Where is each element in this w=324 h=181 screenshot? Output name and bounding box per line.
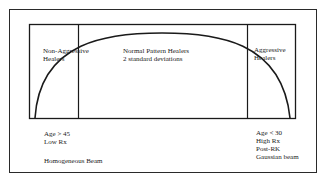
label-aggressive: Aggressive Healers	[254, 46, 286, 62]
note-line: Post-RK	[256, 145, 299, 153]
note-line: Age > 45	[44, 130, 70, 138]
note-line: Gaussian beam	[256, 153, 299, 161]
note-line: High Rx	[256, 137, 299, 145]
label-line: Healers	[43, 55, 89, 63]
note-line: Low Rx	[44, 138, 70, 146]
inner-box	[30, 25, 296, 119]
notes-left: Age > 45 Low Rx	[44, 130, 70, 146]
note-line: Age < 30	[256, 129, 299, 137]
label-line: 2 standard deviations	[123, 55, 189, 63]
notes-right: Age < 30 High Rx Post-RK Gaussian beam	[256, 129, 299, 161]
note-line: Homogeneous Beam	[44, 157, 103, 165]
notes-left-beam: Homogeneous Beam	[44, 157, 103, 165]
label-line: Aggressive	[254, 46, 286, 54]
label-non-aggressive: Non-Aggressive Healers	[43, 47, 89, 63]
label-line: Normal Pattern Healers	[123, 47, 189, 55]
label-line: Non-Aggressive	[43, 47, 89, 55]
bell-curve	[35, 33, 290, 118]
label-normal: Normal Pattern Healers 2 standard deviat…	[123, 47, 189, 63]
label-line: Healers	[254, 54, 286, 62]
